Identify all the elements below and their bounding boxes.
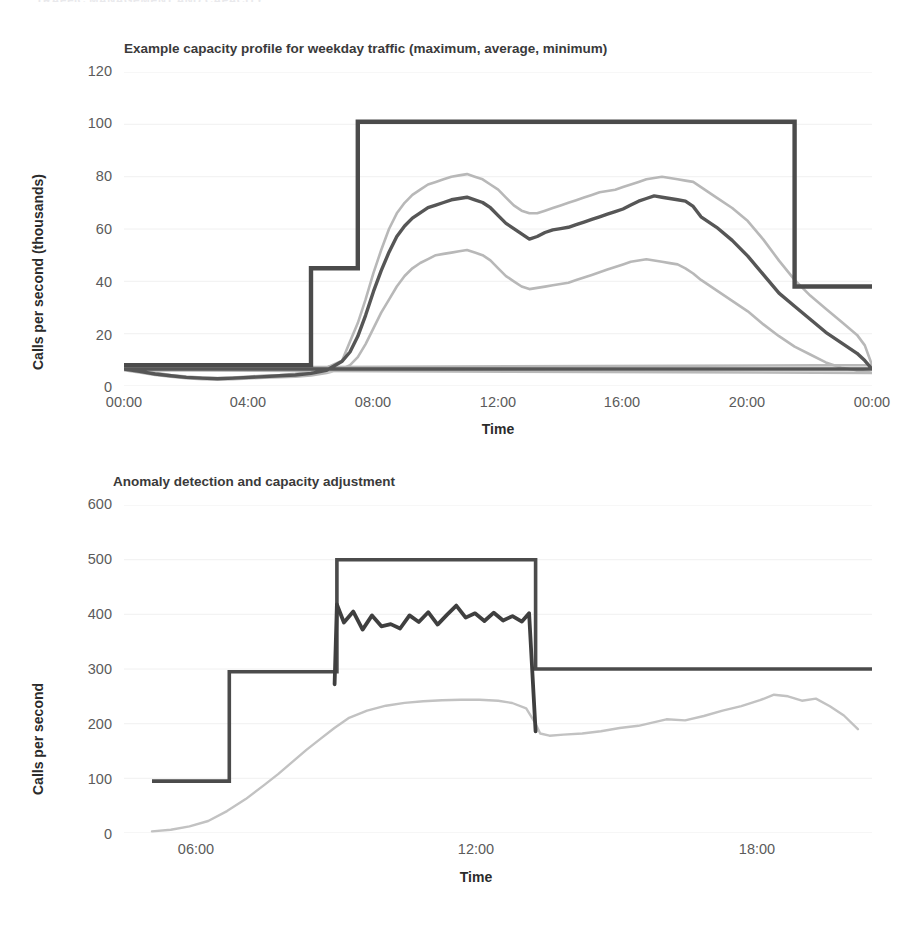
chart-1-xtick-6: 00:00 [832,394,912,410]
chart-2-xtick-2: 18:00 [717,841,797,857]
chart-1-x-axis-label: Time [458,421,538,437]
figure-capacity-profile: Example capacity profile for weekday tra… [0,0,924,455]
chart-1-y-axis-label: Calls per second (thousands) [30,174,46,370]
chart-1-xtick-1: 04:00 [208,394,288,410]
chart-1-series-capacity [124,122,872,365]
chart-1-xtick-5: 20:00 [707,394,787,410]
chart-1-ytick-100: 100 [50,115,112,131]
chart-1-ytick-120: 120 [50,63,112,79]
chart-2-ytick-0: 0 [50,826,112,842]
chart-1-xtick-3: 12:00 [458,394,538,410]
chart-2-ytick-500: 500 [50,551,112,567]
chart-1-ytick-80: 80 [50,168,112,184]
chart-2-ytick-300: 300 [50,661,112,677]
chart-2-ytick-200: 200 [50,716,112,732]
chart-2-ytick-400: 400 [50,606,112,622]
chart-1-ytick-20: 20 [50,327,112,343]
chart-1-ytick-60: 60 [50,221,112,237]
chart-1-ytick-40: 40 [50,274,112,290]
chart-2-plot-area [124,505,872,833]
chart-2-ytick-100: 100 [50,771,112,787]
chart-1-xtick-2: 08:00 [333,394,413,410]
chart-2-ytick-600: 600 [50,496,112,512]
chart-1-xtick-0: 00:00 [84,394,164,410]
chart-2-series-traffic [152,695,858,832]
chart-2-svg [124,505,872,833]
figure-anomaly-detection: Anomaly detection and capacity adjustmen… [0,455,924,927]
chart-1-svg [124,72,872,386]
chart-2-series-capacity [152,560,872,781]
chart-2-y-axis-label: Calls per second [30,683,46,795]
chart-1-title: Example capacity profile for weekday tra… [124,41,607,56]
chart-2-xtick-0: 06:00 [156,841,236,857]
chart-1-series-average [124,196,872,379]
chart-1-plot-area [124,72,872,386]
chart-2-x-axis-label: Time [436,869,516,885]
chart-1-xtick-4: 16:00 [582,394,662,410]
chart-2-xtick-1: 12:00 [436,841,516,857]
figure-page: TRAFFIC MANAGEMENT AND CAPACITY Example … [0,0,924,927]
chart-1-ytick-0: 0 [50,379,112,395]
chart-1-series-maximum [124,174,872,378]
chart-2-title: Anomaly detection and capacity adjustmen… [113,474,395,489]
